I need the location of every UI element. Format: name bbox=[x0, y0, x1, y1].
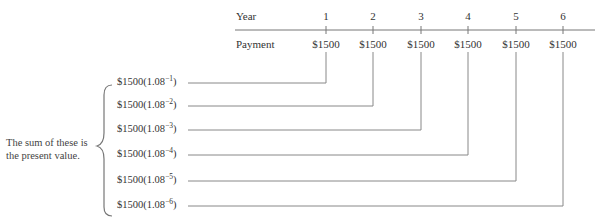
pv-base: $1500(1.08 bbox=[117, 174, 165, 185]
discount-connector bbox=[188, 52, 563, 206]
sum-note-line-1: The sum of these is bbox=[6, 136, 88, 149]
pv-close: ) bbox=[173, 199, 177, 210]
payment-amount: $1500 bbox=[401, 38, 441, 50]
pv-exponent: −3 bbox=[165, 121, 173, 130]
curly-brace bbox=[97, 85, 112, 216]
pv-exponent: −6 bbox=[165, 197, 173, 206]
present-value-term: $1500(1.08−1) bbox=[117, 76, 177, 88]
payment-amount: $1500 bbox=[496, 38, 536, 50]
year-number: 2 bbox=[353, 10, 393, 22]
pv-exponent: −4 bbox=[165, 146, 173, 155]
pv-close: ) bbox=[173, 99, 177, 110]
pv-base: $1500(1.08 bbox=[117, 148, 165, 159]
year-number: 3 bbox=[401, 10, 441, 22]
payment-amount: $1500 bbox=[306, 38, 346, 50]
pv-close: ) bbox=[173, 174, 177, 185]
payment-label: Payment bbox=[236, 38, 275, 50]
payment-amount: $1500 bbox=[353, 38, 393, 50]
sum-note-line-2: the present value. bbox=[6, 149, 88, 162]
sum-note: The sum of these is the present value. bbox=[6, 136, 88, 162]
payment-amount: $1500 bbox=[543, 38, 583, 50]
pv-base: $1500(1.08 bbox=[117, 76, 165, 87]
diagram-lines bbox=[0, 0, 601, 221]
present-value-term: $1500(1.08−4) bbox=[117, 148, 177, 160]
pv-exponent: −5 bbox=[165, 172, 173, 181]
year-number: 5 bbox=[496, 10, 536, 22]
pv-close: ) bbox=[173, 76, 177, 87]
year-number: 1 bbox=[306, 10, 346, 22]
pv-close: ) bbox=[173, 148, 177, 159]
present-value-term: $1500(1.08−2) bbox=[117, 99, 177, 111]
present-value-term: $1500(1.08−6) bbox=[117, 199, 177, 211]
pv-close: ) bbox=[173, 123, 177, 134]
present-value-term: $1500(1.08−5) bbox=[117, 174, 177, 186]
payment-amount: $1500 bbox=[448, 38, 488, 50]
year-label: Year bbox=[236, 10, 256, 22]
discount-connector bbox=[188, 52, 373, 106]
discount-connector bbox=[188, 52, 468, 155]
pv-base: $1500(1.08 bbox=[117, 99, 165, 110]
pv-exponent: −2 bbox=[165, 97, 173, 106]
year-number: 4 bbox=[448, 10, 488, 22]
pv-exponent: −1 bbox=[165, 74, 173, 83]
discount-connector bbox=[188, 52, 421, 130]
present-value-term: $1500(1.08−3) bbox=[117, 123, 177, 135]
pv-base: $1500(1.08 bbox=[117, 199, 165, 210]
pv-base: $1500(1.08 bbox=[117, 123, 165, 134]
discount-connector bbox=[188, 52, 516, 181]
year-number: 6 bbox=[543, 10, 583, 22]
discount-connector bbox=[188, 52, 326, 83]
